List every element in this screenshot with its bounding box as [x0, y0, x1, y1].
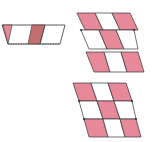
- tiling-diagram: [0, 0, 153, 142]
- strip-top-right-extra: [86, 52, 144, 72]
- strip-left: [2, 25, 65, 44]
- grid-bottom-right: [73, 83, 141, 137]
- grid-top-right: [77, 13, 138, 49]
